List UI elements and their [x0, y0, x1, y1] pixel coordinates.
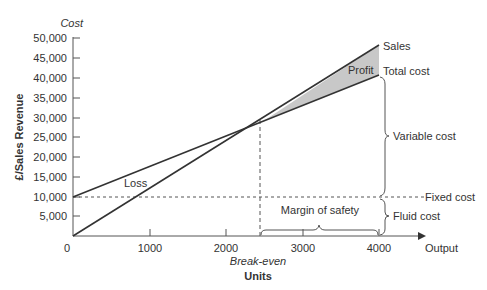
y-tick-label: 15,000: [33, 171, 67, 183]
loss-label: Loss: [124, 177, 148, 189]
x-axis-end-label: Output: [425, 242, 458, 254]
y-tick-label: 25,000: [33, 131, 67, 143]
y-tick-label: 30,000: [33, 112, 67, 124]
fixed-cost-label: Fixed cost: [425, 191, 475, 203]
y-tick-label: 35,000: [33, 92, 67, 104]
margin-of-safety-label: Margin of safety: [281, 204, 360, 216]
x-tick-label: 3000: [291, 242, 315, 254]
x-axis-title: Units: [244, 270, 272, 282]
margin-of-safety-brace: [261, 225, 378, 235]
y-axis-top-label: Cost: [60, 17, 84, 29]
y-tick-label: 40,000: [33, 72, 67, 84]
y-tick-label: 45,000: [33, 52, 67, 64]
fluid-cost-label: Fluid cost: [393, 210, 440, 222]
sales-label: Sales: [383, 40, 411, 52]
variable-cost-brace: [380, 77, 389, 196]
x-tick-label: 1000: [138, 242, 162, 254]
x-tick-label: 4000: [367, 242, 391, 254]
break-even-label: Break-even: [230, 255, 286, 267]
profit-label: Profit: [348, 64, 374, 76]
fluid-cost-brace: [380, 199, 389, 235]
x-tick-label: 0: [64, 242, 70, 254]
x-axis-arrow-icon: [418, 232, 426, 240]
total-cost-line: [73, 75, 379, 197]
y-tick-label: 5,000: [39, 210, 67, 222]
x-tick-label: 2000: [214, 242, 238, 254]
y-axis-title: £/Sales Revenue: [13, 94, 25, 181]
variable-cost-label: Variable cost: [393, 130, 456, 142]
y-ticks: [73, 38, 80, 216]
y-tick-label: 50,000: [33, 32, 67, 44]
y-tick-label: 10,000: [33, 191, 67, 203]
y-tick-label: 20,000: [33, 151, 67, 163]
total-cost-label: Total cost: [383, 65, 429, 77]
break-even-chart: 50,000 45,000 40,000 35,000 30,000 25,00…: [0, 0, 487, 290]
